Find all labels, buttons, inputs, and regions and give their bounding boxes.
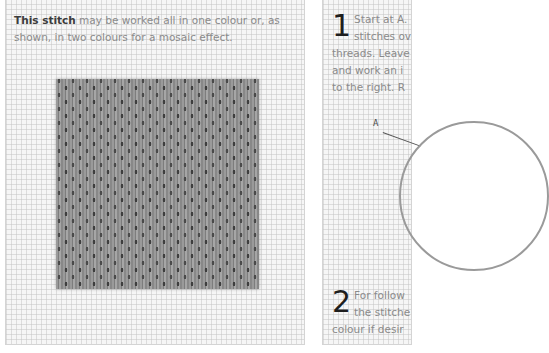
- step-1-line3: threads. Leave: [332, 45, 410, 62]
- step-2-number: 2: [332, 289, 351, 315]
- stitch-overview-panel: This stitch may be worked all in one col…: [5, 0, 305, 345]
- step-2-line3: colour if desir: [332, 321, 404, 338]
- diagram-label-a: A: [373, 118, 378, 128]
- step-2: 2 For follow the stitche: [332, 287, 388, 321]
- magnifier-circle: [399, 121, 549, 271]
- intro-text: This stitch may be worked all in one col…: [14, 12, 304, 46]
- step-instructions-panel: 1 Start at A. stitches ov threads. Leave…: [322, 0, 412, 345]
- step-1: 1 Start at A. stitches ov: [332, 11, 389, 45]
- step-1-line5: to the right. R: [332, 79, 405, 96]
- step-1-line4: and work an i: [332, 62, 403, 79]
- mosaic-stitch-swatch: [56, 79, 259, 289]
- intro-bold: This stitch: [14, 14, 76, 26]
- step-1-number: 1: [332, 13, 351, 39]
- leader-line: [383, 132, 421, 147]
